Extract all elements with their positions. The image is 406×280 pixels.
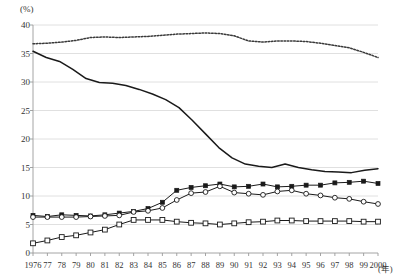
marker-open-square <box>117 222 122 227</box>
marker-open-circle <box>59 215 64 220</box>
marker-open-circle <box>74 215 79 220</box>
marker-open-circle <box>275 189 280 194</box>
marker-open-circle <box>45 215 50 220</box>
marker-filled-square <box>275 185 279 189</box>
marker-open-square <box>289 218 294 223</box>
plot-area <box>0 0 406 280</box>
marker-open-circle <box>347 196 352 201</box>
marker-filled-square <box>232 185 236 189</box>
marker-filled-square <box>347 180 351 184</box>
marker-open-square <box>361 219 366 224</box>
marker-open-square <box>332 219 337 224</box>
series-line-solid-declining-series <box>33 51 378 172</box>
marker-open-circle <box>189 191 194 196</box>
marker-open-circle <box>289 188 294 193</box>
marker-open-circle <box>160 206 165 211</box>
marker-open-circle <box>332 195 337 200</box>
marker-filled-square <box>261 182 265 186</box>
marker-open-circle <box>261 192 266 197</box>
marker-filled-square <box>376 181 380 185</box>
marker-open-square <box>174 219 179 224</box>
marker-open-circle <box>203 190 208 195</box>
marker-filled-square <box>204 184 208 188</box>
marker-open-square <box>31 241 36 246</box>
marker-open-square <box>74 233 79 238</box>
marker-open-square <box>347 219 352 224</box>
marker-open-circle <box>361 199 366 204</box>
marker-filled-square <box>362 179 366 183</box>
marker-open-circle <box>246 191 251 196</box>
marker-filled-square <box>160 200 164 204</box>
marker-open-square <box>275 218 280 223</box>
marker-open-circle <box>102 214 107 219</box>
marker-open-square <box>261 219 266 224</box>
marker-open-square <box>59 235 64 240</box>
marker-open-circle <box>146 208 151 213</box>
marker-open-circle <box>318 193 323 198</box>
marker-open-square <box>189 220 194 225</box>
marker-filled-square <box>333 181 337 185</box>
marker-open-square <box>246 220 251 225</box>
marker-open-circle <box>376 202 381 207</box>
marker-open-circle <box>88 214 93 219</box>
marker-filled-square <box>247 184 251 188</box>
marker-open-square <box>160 218 165 223</box>
marker-open-square <box>318 219 323 224</box>
marker-open-circle <box>31 215 36 220</box>
marker-open-square <box>376 219 381 224</box>
chart-container: (%) (年) 0510152025303540 197677787980818… <box>0 0 406 280</box>
marker-filled-square <box>189 185 193 189</box>
marker-open-square <box>304 219 309 224</box>
marker-open-square <box>232 221 237 226</box>
marker-open-square <box>88 230 93 235</box>
marker-open-square <box>131 218 136 223</box>
marker-open-circle <box>174 198 179 203</box>
marker-open-circle <box>117 213 122 218</box>
marker-open-square <box>217 222 222 227</box>
marker-filled-square <box>175 188 179 192</box>
marker-open-square <box>45 238 50 243</box>
marker-open-square <box>203 221 208 226</box>
marker-open-circle <box>232 190 237 195</box>
marker-filled-square <box>319 183 323 187</box>
marker-open-square <box>102 227 107 232</box>
marker-open-circle <box>217 184 222 189</box>
marker-open-circle <box>131 210 136 215</box>
marker-open-circle <box>304 191 309 196</box>
marker-open-square <box>146 218 151 223</box>
marker-filled-square <box>304 183 308 187</box>
